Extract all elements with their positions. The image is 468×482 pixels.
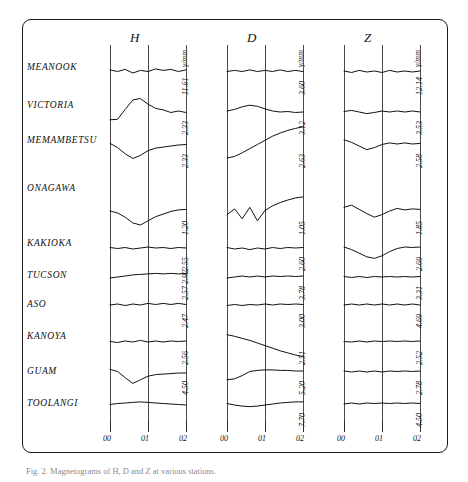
trace-d-kakioka xyxy=(227,248,303,250)
scale-value-h-tucson: 2.57 2.92 xyxy=(181,270,190,300)
scale-value-d-aso: 3.00 xyxy=(298,314,307,328)
scale-value-d-kanoya: 2.51 xyxy=(298,351,307,365)
scale-value-z-kakioka: 2.69 xyxy=(415,257,424,271)
tick-label-z-01: 01 xyxy=(375,434,383,443)
trace-h-kanoya xyxy=(110,340,186,342)
scale-value-z-aso: 4.69 xyxy=(415,314,424,328)
scale-value-h-aso: 2.47 xyxy=(181,314,190,328)
scale-value-d-kakioka: 2.60 xyxy=(298,257,307,271)
trace-d-toolangi xyxy=(227,402,303,407)
trace-z-kanoya xyxy=(344,341,420,342)
tick-d-01 xyxy=(265,420,266,432)
figure-caption: Fig. 2. Magnetograms of H, D and Z at va… xyxy=(26,466,466,480)
trace-h-tucson xyxy=(110,273,186,278)
trace-z-guam xyxy=(344,371,420,372)
trace-z-tucson xyxy=(344,277,420,278)
scale-value-h-kanoya: 2.56 xyxy=(181,351,190,365)
trace-h-memambetsu xyxy=(110,143,186,158)
trace-h-guam xyxy=(110,369,186,383)
trace-curves xyxy=(0,0,468,482)
tick-z-02 xyxy=(420,420,421,432)
scale-value-d-guam: 5.20 xyxy=(298,381,307,395)
scale-value-z-memambetsu: 2.58 xyxy=(415,154,424,168)
tick-label-h-00: 00 xyxy=(103,434,111,443)
tick-h-01 xyxy=(148,420,149,432)
tick-label-h-02: 02 xyxy=(179,434,187,443)
trace-d-kanoya xyxy=(227,335,303,357)
tick-label-h-01: 01 xyxy=(141,434,149,443)
tick-label-d-00: 00 xyxy=(220,434,228,443)
tick-d-02 xyxy=(303,420,304,432)
tick-z-01 xyxy=(382,420,383,432)
scale-value-h-memambetsu: 2.33 xyxy=(181,154,190,168)
scale-value-z-meanook: 12.14 xyxy=(415,77,424,95)
trace-h-kakioka xyxy=(110,247,186,249)
trace-z-victoria xyxy=(344,110,420,113)
trace-z-meanook xyxy=(344,70,420,72)
scale-value-d-memambetsu: 2.63 xyxy=(298,154,307,168)
trace-z-onagawa xyxy=(344,205,420,217)
trace-h-onagawa xyxy=(110,209,186,225)
tick-h-00 xyxy=(110,420,111,432)
tick-z-00 xyxy=(344,420,345,432)
tick-label-d-02: 02 xyxy=(296,434,304,443)
trace-z-kakioka xyxy=(344,247,420,258)
trace-d-aso xyxy=(227,304,303,306)
trace-d-tucson xyxy=(227,276,303,278)
scale-value-z-kanoya: 2.52 xyxy=(415,351,424,365)
scale-value-d-onagawa: 1.05 xyxy=(298,221,307,235)
trace-h-toolangi xyxy=(110,402,186,405)
trace-d-victoria xyxy=(227,105,303,112)
tick-label-z-00: 00 xyxy=(337,434,345,443)
scale-value-z-tucson: 3.31 xyxy=(415,286,424,300)
tick-h-02 xyxy=(186,420,187,432)
tick-d-00 xyxy=(227,420,228,432)
scale-value-d-tucson: 3.78 xyxy=(298,286,307,300)
scale-value-d-victoria: 3.12 xyxy=(298,121,307,135)
tick-label-z-02: 02 xyxy=(413,434,421,443)
scale-value-h-onagawa: 1.20 xyxy=(181,221,190,235)
trace-h-aso xyxy=(110,303,186,305)
trace-h-meanook xyxy=(110,69,186,73)
magnetogram-figure: H D Z γ/mm γ/mm γ/mm MEANOOK VICTORIA ME… xyxy=(0,0,468,482)
trace-z-memambetsu xyxy=(344,140,420,150)
trace-z-toolangi xyxy=(344,403,420,404)
trace-d-memambetsu xyxy=(227,127,303,158)
scale-value-d-meanook: 3.60 xyxy=(298,81,307,95)
scale-value-h-meanook: 11.61 xyxy=(181,78,190,95)
trace-d-guam xyxy=(227,370,303,380)
tick-label-d-01: 01 xyxy=(258,434,266,443)
trace-h-victoria xyxy=(110,99,186,120)
scale-value-h-guam: 4.50 xyxy=(181,381,190,395)
trace-d-meanook xyxy=(227,70,303,72)
trace-z-aso xyxy=(344,304,420,305)
scale-value-h-victoria: 2.33 xyxy=(181,121,190,135)
trace-d-onagawa xyxy=(227,197,303,221)
scale-value-z-victoria: 3.53 xyxy=(415,121,424,135)
scale-value-z-guam: 2.78 xyxy=(415,381,424,395)
scale-value-h-kakioka: 2.55 xyxy=(181,257,190,271)
scale-value-z-onagawa: 1.85 xyxy=(415,221,424,235)
